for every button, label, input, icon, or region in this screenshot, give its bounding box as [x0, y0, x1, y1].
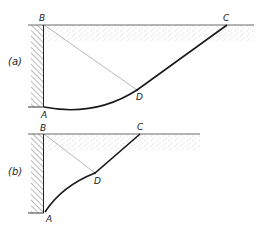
- label-d: D: [136, 92, 143, 102]
- backfill-stipple: [44, 134, 200, 151]
- label-a: A: [45, 214, 52, 224]
- label-c: C: [137, 122, 144, 132]
- diagram-canvas: B A C D (a) B A C D (b): [0, 0, 267, 227]
- panel-label-a: (a): [8, 56, 22, 67]
- diagram-svg: B A C D (a) B A C D (b): [0, 0, 267, 227]
- wall-hatching: [31, 25, 43, 107]
- label-b: B: [39, 13, 45, 23]
- label-c: C: [223, 13, 230, 23]
- panel-b: B A C D (b): [8, 122, 200, 224]
- point-d-marker: [136, 89, 138, 91]
- panel-label-b: (b): [8, 166, 22, 177]
- label-a: A: [40, 110, 47, 120]
- label-d: D: [94, 176, 101, 186]
- wall-hatching: [31, 134, 43, 213]
- label-b: B: [40, 123, 46, 133]
- point-d-marker: [94, 172, 96, 174]
- panel-a: B A C D (a): [8, 13, 254, 120]
